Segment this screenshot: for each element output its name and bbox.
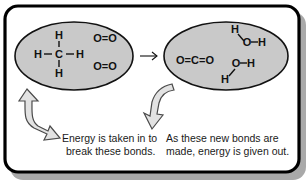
energy-in-line-1: Energy is taken in to — [62, 132, 157, 144]
energy-in-line-2: break these bonds. — [66, 145, 155, 157]
water-1-h-right: H — [258, 36, 266, 48]
oxygen-molecule-1: O=O — [93, 32, 117, 44]
carbon-dioxide-molecule: O=C=O — [176, 54, 214, 66]
methane-right-h: H — [76, 48, 84, 60]
diagram-canvas: H H C H H O=O O=O O=C=O H O H O H H — [0, 0, 308, 182]
methane-bottom-h: H — [55, 67, 63, 79]
methane-top-h: H — [55, 29, 63, 41]
water-2-h-lower: H — [221, 73, 229, 85]
oxygen-molecule-2: O=O — [93, 60, 117, 72]
water-1-h-upper: H — [231, 23, 239, 35]
energy-out-line-1: As these new bonds are — [166, 132, 279, 144]
water-2-h-right: H — [247, 57, 255, 69]
water-1-o: O — [243, 36, 252, 48]
methane-center-c: C — [55, 48, 63, 60]
energy-out-line-2: made, energy is given out. — [166, 145, 289, 157]
water-2-o: O — [232, 57, 241, 69]
chemical-reaction-energy-diagram: H H C H H O=O O=O O=C=O H O H O H H — [0, 0, 308, 182]
methane-left-h: H — [34, 48, 42, 60]
